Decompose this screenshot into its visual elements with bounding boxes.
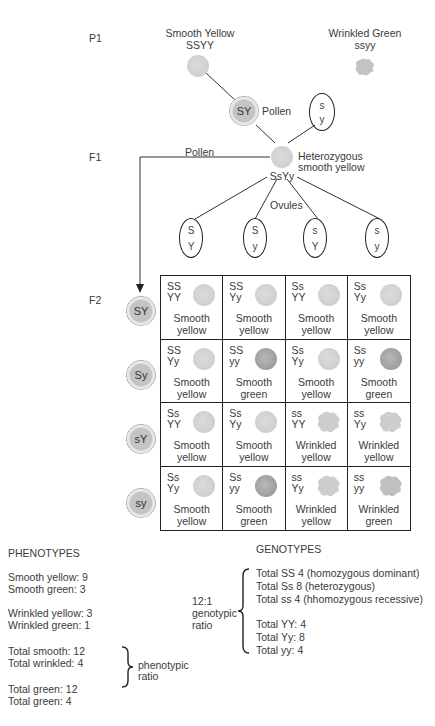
- cell-genotype: SsYy: [292, 345, 304, 367]
- ovule-sY: sY: [303, 218, 327, 258]
- punnett-cell: SsYYSmoothyellow: [286, 276, 348, 340]
- genotype-y: YY: [292, 419, 306, 430]
- phenotype-shape: Smooth: [223, 439, 284, 451]
- phenotype-shape: Wrinkled: [286, 503, 347, 515]
- smooth-yellow-pea-icon: [380, 284, 402, 306]
- genotype-s: SS: [229, 345, 243, 356]
- genotype-s: ss: [292, 472, 304, 483]
- cell-phenotype: Smoothyellow: [286, 376, 347, 400]
- genotype-y: Yy: [229, 419, 241, 430]
- smooth-green-pea-icon: [255, 475, 277, 497]
- phenotypic-brace-icon: [120, 646, 134, 688]
- cell-genotype: SsYY: [167, 408, 181, 430]
- f1-genotype: SsYy: [257, 170, 307, 182]
- cell-genotype: Ssyy: [354, 345, 366, 367]
- cell-phenotype: Wrinkledyellow: [286, 503, 347, 527]
- genotype-line: Total yy: 4: [256, 644, 303, 656]
- genotype-y: yy: [229, 483, 241, 494]
- ovule-p1: s y: [309, 93, 335, 131]
- phenotype-shape: Smooth: [223, 503, 284, 515]
- cell-genotype: SSYy: [229, 281, 243, 303]
- wrinkled-green-pea-icon: [354, 57, 376, 77]
- punnett-cell: ssyyWrinkledgreen: [348, 467, 410, 531]
- genotype-y: yy: [354, 483, 365, 494]
- smooth-green-pea-icon: [255, 348, 277, 370]
- phenotype-color: green: [223, 515, 284, 527]
- phenotype-shape: Smooth: [161, 439, 222, 451]
- wrinkled-pea-icon: [316, 474, 342, 498]
- phenotypic-ratio-label-2: ratio: [138, 670, 158, 682]
- pollen-sY-icon: sY: [126, 424, 156, 454]
- smooth-yellow-pea-icon: [255, 411, 277, 433]
- cell-genotype: SsYy: [229, 408, 241, 430]
- phenotype-color: yellow: [161, 515, 222, 527]
- punnett-cell: SsYySmoothyellow: [161, 467, 223, 531]
- cell-genotype: SSyy: [229, 345, 243, 367]
- smooth-yellow-pea-icon: [193, 411, 215, 433]
- punnett-cell: SSyySmoothgreen: [223, 340, 285, 404]
- phenotype-shape: Smooth: [286, 376, 347, 388]
- phenotype-shape: Smooth: [348, 376, 410, 388]
- cell-phenotype: Wrinkledyellow: [286, 439, 347, 463]
- genotype-s: Ss: [229, 472, 241, 483]
- pollen-label: Pollen: [262, 105, 291, 117]
- wrinkled-pea-icon: [378, 410, 404, 434]
- genotype-line: Total YY: 4: [256, 618, 306, 630]
- punnett-cell: ssYyWrinkledyellow: [286, 467, 348, 531]
- cell-genotype: SSYY: [167, 281, 181, 303]
- smooth-yellow-pea-icon: [187, 55, 209, 77]
- phenotype-line: Wrinkled green: 1: [8, 619, 90, 631]
- phenotype-color: yellow: [161, 388, 222, 400]
- genotype-s: Ss: [354, 345, 366, 356]
- genotype-line: Total ss 4 (hhomozygous recessive): [256, 593, 423, 605]
- cell-genotype: ssYY: [292, 408, 306, 430]
- phenotype-line: Wrinkled yellow: 3: [8, 607, 92, 619]
- phenotype-shape: Smooth: [223, 312, 284, 324]
- punnett-square: SSYYSmoothyellowSSYySmoothyellowSsYYSmoo…: [160, 275, 411, 531]
- pollen-sy-icon: SY: [229, 96, 259, 126]
- genotype-s: SS: [167, 345, 181, 356]
- phenotype-color: green: [223, 388, 284, 400]
- smooth-yellow-pea-icon: [255, 284, 277, 306]
- phenotype-line: Total green: 4: [8, 695, 72, 707]
- smooth-yellow-pea-icon: [318, 284, 340, 306]
- punnett-cell: SsYySmoothyellow: [348, 276, 410, 340]
- genotype-y: YY: [167, 292, 181, 303]
- cell-phenotype: Smoothgreen: [223, 376, 284, 400]
- genotype-line: Total Ss 8 (heterozygous): [256, 580, 375, 592]
- f1-description-line2: smooth yellow: [298, 161, 365, 173]
- cell-phenotype: Smoothyellow: [161, 312, 222, 336]
- cell-phenotype: Smoothyellow: [161, 503, 222, 527]
- pollen-SY-icon: SY: [126, 296, 156, 326]
- punnett-cell: SsyySmoothgreen: [223, 467, 285, 531]
- cell-phenotype: Smoothyellow: [161, 439, 222, 463]
- cell-phenotype: Smoothgreen: [223, 503, 284, 527]
- phenotype-shape: Smooth: [286, 312, 347, 324]
- phenotype-line: Total green: 12: [8, 683, 77, 695]
- genotype-line: Total Yy: 8: [256, 631, 305, 643]
- genotypic-brace-icon: [237, 568, 251, 654]
- cell-genotype: SsYy: [354, 281, 366, 303]
- genotype-y: Yy: [354, 292, 366, 303]
- phenotype-line: Smooth green: 3: [8, 583, 86, 595]
- smooth-green-pea-icon: [380, 348, 402, 370]
- genotype-y: yy: [229, 356, 243, 367]
- punnett-cell: SsYySmoothyellow: [286, 340, 348, 404]
- cell-phenotype: Smoothyellow: [161, 376, 222, 400]
- cell-genotype: ssYy: [354, 408, 366, 430]
- phenotype-color: green: [348, 515, 410, 527]
- phenotype-shape: Wrinkled: [286, 439, 347, 451]
- generation-label-p1: P1: [89, 32, 102, 44]
- parent-smooth-yellow-name: Smooth Yellow: [150, 27, 250, 39]
- phenotype-line: Smooth yellow: 9: [8, 571, 88, 583]
- genotypes-heading: GENOTYPES: [256, 543, 321, 555]
- phenotype-color: yellow: [223, 324, 284, 336]
- phenotype-shape: Smooth: [348, 312, 410, 324]
- genotypic-ratio-label-2: ratio: [192, 619, 212, 631]
- genotypic-ratio-value: 12:1: [192, 595, 212, 607]
- phenotype-shape: Wrinkled: [348, 503, 410, 515]
- generation-label-f2: F2: [89, 294, 101, 306]
- phenotype-color: yellow: [223, 451, 284, 463]
- punnett-cell: SSYYSmoothyellow: [161, 276, 223, 340]
- punnett-cell: SSYySmoothyellow: [223, 276, 285, 340]
